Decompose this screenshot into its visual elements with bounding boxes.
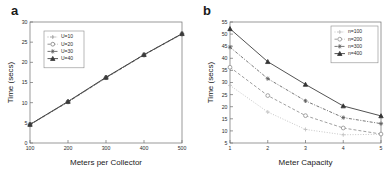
x-tick-label: 200: [64, 145, 73, 151]
y-tick-label: 0: [25, 140, 28, 146]
y-tick-label: 15: [22, 79, 28, 85]
y-tick-label: 30: [22, 19, 28, 25]
marker-triangle: [341, 104, 345, 108]
marker-circle: [228, 65, 232, 69]
marker-star: [338, 44, 342, 48]
x-axis-title: Meters per Collector: [70, 158, 142, 167]
marker-star: [341, 115, 345, 119]
marker-triangle: [180, 31, 184, 35]
legend-label: n=100: [348, 28, 362, 34]
y-axis-title: Time (secs): [206, 61, 215, 103]
marker-star: [303, 99, 307, 103]
legend-label: n=400: [348, 50, 362, 56]
y-tick-label: 25: [22, 39, 28, 45]
panel-a-plot: 100200300400500051015202530Meters per Co…: [0, 0, 195, 187]
marker-star: [379, 122, 383, 126]
legend-label: n=200: [348, 36, 362, 42]
marker-plus: [228, 83, 232, 87]
y-tick-label: 15: [222, 116, 228, 122]
x-tick-label: 2: [266, 145, 269, 151]
y-tick-label: 40: [222, 55, 228, 61]
legend-label: U=20: [61, 41, 73, 47]
marker-circle: [266, 94, 270, 98]
y-tick-label: 10: [22, 100, 28, 106]
marker-circle: [51, 42, 55, 46]
y-tick-label: 20: [222, 104, 228, 110]
marker-circle: [338, 37, 342, 41]
x-tick-label: 4: [342, 145, 345, 151]
marker-star: [51, 49, 55, 53]
y-tick-label: 45: [222, 43, 228, 49]
y-tick-label: 10: [222, 128, 228, 134]
marker-triangle: [379, 114, 383, 118]
legend-label: n=300: [348, 43, 362, 49]
panel-b: b 12345510152025303540455055Meter Capaci…: [195, 0, 390, 187]
marker-star: [266, 77, 270, 81]
legend-sample-marker: [51, 49, 55, 53]
marker-triangle: [142, 52, 146, 56]
y-tick-label: 25: [222, 92, 228, 98]
legend-sample-marker: [338, 37, 342, 41]
marker-plus: [304, 127, 308, 131]
panel-a: a 100200300400500051015202530Meters per …: [0, 0, 195, 187]
x-tick-label: 400: [140, 145, 149, 151]
panel-b-plot: 12345510152025303540455055Meter Capacity…: [195, 0, 390, 187]
legend-label: U=10: [61, 33, 73, 39]
marker-plus: [341, 133, 345, 137]
legend-label: U=40: [61, 55, 73, 61]
y-tick-label: 5: [225, 140, 228, 146]
marker-circle: [304, 114, 308, 118]
legend-sample-marker: [51, 42, 55, 46]
y-tick-label: 35: [222, 67, 228, 73]
x-tick-label: 5: [380, 145, 383, 151]
y-tick-label: 20: [22, 59, 28, 65]
y-axis-title: Time (secs): [6, 61, 15, 103]
marker-circle: [379, 132, 383, 136]
y-tick-label: 5: [25, 120, 28, 126]
legend-sample-marker: [338, 44, 342, 48]
figure-container: a 100200300400500051015202530Meters per …: [0, 0, 390, 187]
x-tick-label: 500: [178, 145, 187, 151]
x-axis-title: Meter Capacity: [279, 158, 333, 167]
marker-triangle: [104, 75, 108, 79]
y-tick-label: 50: [222, 31, 228, 37]
x-tick-label: 1: [229, 145, 232, 151]
y-tick-label: 55: [222, 19, 228, 25]
y-tick-label: 30: [222, 79, 228, 85]
x-tick-label: 300: [102, 145, 111, 151]
marker-triangle: [228, 27, 232, 31]
marker-star: [228, 45, 232, 49]
marker-triangle: [303, 82, 307, 86]
legend-label: U=30: [61, 48, 73, 54]
marker-circle: [341, 126, 345, 130]
marker-triangle: [66, 99, 70, 103]
x-tick-label: 3: [304, 145, 307, 151]
